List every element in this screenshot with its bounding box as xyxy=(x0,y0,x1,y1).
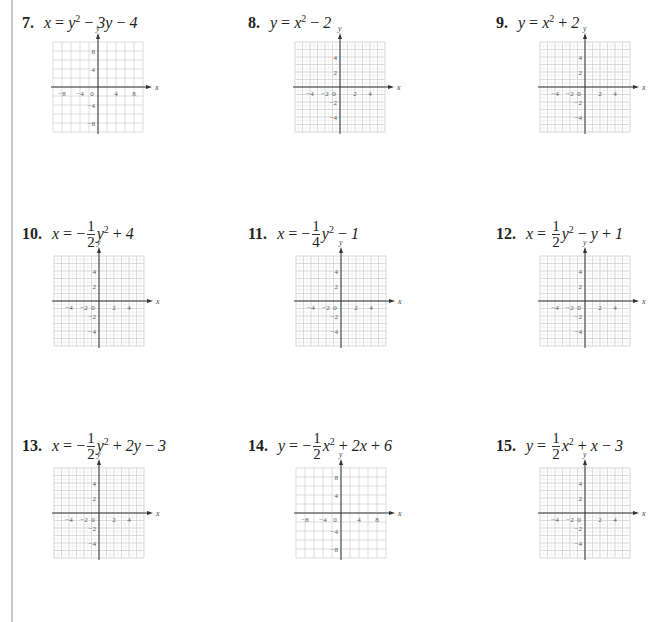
x-tick-label: 0 xyxy=(90,90,94,98)
y-tick-label: 4 xyxy=(92,66,96,74)
y-axis-label: y xyxy=(338,450,343,459)
coordinate-grid: xy−8−404884−4−8 xyxy=(53,42,143,132)
y-tick-label: 2 xyxy=(579,283,583,291)
x-axis-arrow-icon xyxy=(633,511,639,515)
equation-text: x = 12y2 − y + 1 xyxy=(526,225,623,242)
x-axis-label: x xyxy=(154,83,159,92)
coordinate-grid: xy−8−404884−4−8 xyxy=(296,468,386,558)
x-axis-arrow-icon xyxy=(147,511,153,515)
coordinate-grid: xy−4−202442−2−4 xyxy=(540,256,630,346)
y-tick-label: 2 xyxy=(335,283,339,291)
x-axis-arrow-icon xyxy=(147,299,153,303)
x-tick-label: 0 xyxy=(332,90,336,98)
x-tick-label: 2 xyxy=(112,304,116,312)
x-tick-label: −4 xyxy=(551,516,559,524)
x-axis-arrow-icon xyxy=(388,85,394,89)
problem-number: 14. xyxy=(248,437,268,454)
x-tick-label: 2 xyxy=(112,516,116,524)
problem-equation: 9.y = x2 + 2 xyxy=(496,10,579,32)
y-tick-label: −2 xyxy=(575,525,583,533)
x-tick-label: 0 xyxy=(577,516,581,524)
y-axis-label: y xyxy=(95,24,100,33)
problem-number: 10. xyxy=(22,225,42,242)
x-tick-label: −4 xyxy=(65,516,73,524)
y-tick-label: 8 xyxy=(92,48,96,56)
y-tick-label: −4 xyxy=(575,540,583,548)
y-tick-label: −4 xyxy=(575,328,583,336)
x-axis-label: x xyxy=(155,297,160,306)
x-tick-label: −2 xyxy=(80,304,88,312)
y-tick-label: 4 xyxy=(334,54,338,62)
y-axis-label: y xyxy=(96,238,101,247)
equation-text: x = −12y2 + 2y − 3 xyxy=(52,437,166,454)
x-tick-label: 4 xyxy=(613,90,617,98)
x-axis-arrow-icon xyxy=(389,299,395,303)
equation-text: y = x2 − 2 xyxy=(270,14,331,31)
x-tick-label: 4 xyxy=(114,90,118,98)
x-tick-label: 0 xyxy=(577,90,581,98)
y-tick-label: 4 xyxy=(93,480,97,488)
x-tick-label: 0 xyxy=(333,516,337,524)
coordinate-grid: xy−4−202442−2−4 xyxy=(54,468,144,558)
equation-text: x = y2 − 3y − 4 xyxy=(44,14,137,31)
problem-equation: 7.x = y2 − 3y − 4 xyxy=(22,10,137,32)
y-tick-label: −2 xyxy=(89,313,97,321)
x-tick-label: −4 xyxy=(306,90,314,98)
x-axis-label: x xyxy=(397,509,402,518)
x-tick-label: −4 xyxy=(551,90,559,98)
x-tick-label: 4 xyxy=(127,304,131,312)
equation-text: x = −12y2 + 4 xyxy=(52,225,134,242)
x-tick-label: −2 xyxy=(566,304,574,312)
x-axis-label: x xyxy=(641,83,646,92)
y-axis-arrow-icon xyxy=(96,33,100,39)
problem-equation: 8.y = x2 − 2 xyxy=(248,10,331,32)
y-tick-label: −4 xyxy=(89,328,97,336)
x-tick-label: −4 xyxy=(65,304,73,312)
y-axis-label: y xyxy=(338,238,343,247)
x-tick-label: 2 xyxy=(354,304,358,312)
x-tick-label: 8 xyxy=(132,90,136,98)
x-tick-label: 4 xyxy=(127,516,131,524)
problem-equation: 15.y = 12x2 + x − 3 xyxy=(496,432,623,463)
x-axis-label: x xyxy=(396,83,401,92)
coordinate-grid: xy−4−202442−2−4 xyxy=(296,256,386,346)
x-axis-label: x xyxy=(155,509,160,518)
x-tick-label: −4 xyxy=(551,304,559,312)
x-tick-label: 2 xyxy=(598,516,602,524)
x-tick-label: 4 xyxy=(368,90,372,98)
y-tick-label: 4 xyxy=(579,54,583,62)
y-tick-label: −4 xyxy=(330,114,338,122)
y-axis-label: y xyxy=(337,24,342,33)
y-axis-label: y xyxy=(582,450,587,459)
y-tick-label: 2 xyxy=(93,283,97,291)
x-tick-label: 4 xyxy=(369,304,373,312)
coordinate-grid: xy−4−202442−2−4 xyxy=(540,468,630,558)
x-tick-label: −4 xyxy=(307,304,315,312)
x-tick-label: −2 xyxy=(566,516,574,524)
x-axis-label: x xyxy=(641,297,646,306)
y-tick-label: −8 xyxy=(88,120,96,128)
problem-number: 7. xyxy=(22,14,34,31)
equation-text: y = 12x2 + x − 3 xyxy=(526,437,623,454)
y-axis-label: y xyxy=(582,24,587,33)
y-tick-label: −2 xyxy=(575,313,583,321)
x-tick-label: 4 xyxy=(613,516,617,524)
problem-equation: 14.y = −12x2 + 2x + 6 xyxy=(248,432,392,463)
x-tick-label: 2 xyxy=(598,304,602,312)
x-tick-label: 8 xyxy=(375,516,379,524)
equation-text: y = −12x2 + 2x + 6 xyxy=(278,437,392,454)
y-tick-label: −2 xyxy=(331,313,339,321)
problem-number: 15. xyxy=(496,437,516,454)
y-tick-label: −4 xyxy=(331,528,339,536)
problem-equation: 13.x = −12y2 + 2y − 3 xyxy=(22,432,166,463)
x-tick-label: −8 xyxy=(301,516,309,524)
y-axis-label: y xyxy=(96,450,101,459)
y-tick-label: −2 xyxy=(330,99,338,107)
problem-number: 11. xyxy=(248,225,267,242)
y-tick-label: 2 xyxy=(334,69,338,77)
y-tick-label: −8 xyxy=(331,546,339,554)
y-tick-label: −4 xyxy=(88,102,96,110)
x-tick-label: −2 xyxy=(80,516,88,524)
y-tick-label: 2 xyxy=(93,495,97,503)
problem-number: 13. xyxy=(22,437,42,454)
